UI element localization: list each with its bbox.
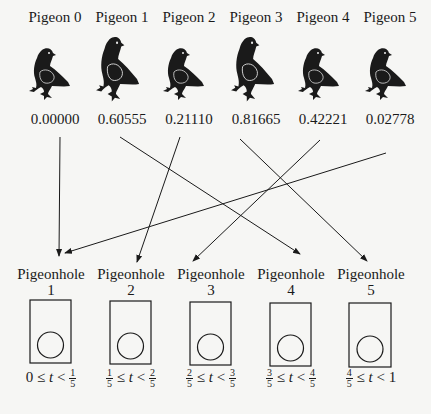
pigeon-value: 0.42221 bbox=[288, 111, 358, 128]
pigeonhole-label-2: Pigeonhole2 bbox=[91, 266, 171, 298]
pigeonhole-label-4: Pigeonhole4 bbox=[251, 266, 331, 298]
arrow-pigeon3-to-hole5 bbox=[240, 139, 367, 261]
pigeon-value: 0.60555 bbox=[87, 111, 157, 128]
pigeonhole-range-4: 35 ≤ t < 45 bbox=[251, 368, 331, 389]
pigeon-icon bbox=[163, 48, 204, 100]
diagram-canvas bbox=[0, 0, 431, 414]
pigeonhole-box-3 bbox=[190, 302, 231, 365]
pigeonhole-box-5 bbox=[349, 303, 391, 367]
pigeon-icon bbox=[231, 37, 274, 102]
pigeonhole-range-3: 25 ≤ t < 35 bbox=[171, 368, 251, 389]
pigeon-icon bbox=[29, 48, 70, 100]
pigeonhole-box-4 bbox=[270, 303, 311, 366]
pigeonhole-box-1 bbox=[30, 300, 71, 363]
pigeonhole-range-1: 0 ≤ t < 15 bbox=[11, 368, 91, 389]
pigeon-label: Pigeon 4 bbox=[288, 9, 358, 26]
pigeon-label: Pigeon 0 bbox=[20, 9, 90, 26]
arrow-pigeon2-to-hole2 bbox=[137, 137, 180, 262]
pigeonhole-range-2: 15 ≤ t < 25 bbox=[91, 368, 171, 389]
pigeon-icon bbox=[365, 48, 406, 100]
pigeon-icon bbox=[298, 48, 339, 100]
pigeon-label: Pigeon 1 bbox=[87, 9, 157, 26]
pigeonhole-label-3: Pigeonhole3 bbox=[171, 266, 251, 298]
pigeonhole-label-5: Pigeonhole5 bbox=[331, 266, 411, 298]
arrow-pigeon0-to-hole1 bbox=[59, 137, 60, 256]
pigeon-value: 0.02778 bbox=[355, 111, 425, 128]
pigeonhole-range-5: 45 ≤ t < 1 bbox=[331, 368, 411, 389]
pigeon-label: Pigeon 2 bbox=[154, 9, 224, 26]
arrow-pigeon1-to-hole4 bbox=[120, 137, 300, 254]
pigeon-value: 0.81665 bbox=[221, 111, 291, 128]
pigeon-label: Pigeon 3 bbox=[221, 9, 291, 26]
pigeon-value: 0.21110 bbox=[154, 111, 224, 128]
arrow-pigeon4-to-hole3 bbox=[193, 140, 320, 261]
pigeon-icon bbox=[96, 37, 139, 102]
pigeonhole-box-2 bbox=[110, 301, 151, 364]
pigeon-value: 0.00000 bbox=[20, 111, 90, 128]
pigeon-label: Pigeon 5 bbox=[355, 9, 425, 26]
pigeonhole-label-1: Pigeonhole1 bbox=[11, 266, 91, 298]
arrow-pigeon5-to-hole1 bbox=[65, 153, 386, 253]
